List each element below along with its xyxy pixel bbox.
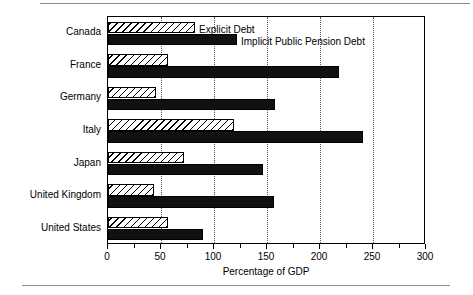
x-tick-0 [107,244,108,249]
legend-label-explicit-debt: Explicit Debt [199,24,255,35]
x-tick-200 [319,244,320,249]
x-tick-label-100: 100 [205,251,222,263]
x-axis: 050100150200250300 [107,244,425,268]
bar-explicit-debt [108,152,184,164]
x-tick-300 [425,244,426,249]
category-label-italy: Italy [83,124,101,135]
x-tick-label-300: 300 [417,251,434,263]
x-tick-50 [160,244,161,249]
category-label-united-kingdom: United Kingdom [30,189,101,200]
top-divider-rule [40,3,470,4]
bar-implicit-public-pension-debt [108,131,363,143]
bar-implicit-public-pension-debt [108,196,274,208]
x-tick-minor-75 [187,244,188,248]
bottom-divider-rule [22,285,450,286]
gridline-250 [373,17,375,243]
bar-implicit-public-pension-debt [108,164,263,176]
x-tick-minor-25 [134,244,135,248]
x-tick-label-150: 150 [258,251,275,263]
bar-explicit-debt [108,22,195,34]
category-label-japan: Japan [74,157,101,168]
bar-implicit-public-pension-debt [108,229,203,241]
x-tick-150 [266,244,267,249]
bar-explicit-debt [108,184,154,196]
category-axis-labels: CanadaFranceGermanyItalyJapanUnited King… [0,16,101,244]
gridline-200 [320,17,322,243]
category-label-canada: Canada [66,26,101,37]
x-tick-label-50: 50 [154,251,165,263]
bar-explicit-debt [108,54,168,66]
x-axis-title: Percentage of GDP [107,266,425,278]
x-tick-250 [372,244,373,249]
x-tick-label-0: 0 [104,251,110,263]
bar-explicit-debt [108,119,234,131]
bar-implicit-public-pension-debt [108,99,275,111]
category-label-united-states: United States [41,222,101,233]
legend-label-implicit-public-pension-debt: Implicit Public Pension Debt [241,36,365,47]
x-tick-minor-225 [346,244,347,248]
x-tick-100 [213,244,214,249]
x-tick-minor-125 [240,244,241,248]
bar-implicit-public-pension-debt [108,66,339,78]
x-tick-label-250: 250 [364,251,381,263]
x-tick-label-200: 200 [311,251,328,263]
plot-area [107,16,425,244]
category-label-france: France [70,59,101,70]
bar-explicit-debt [108,87,156,99]
bar-explicit-debt [108,217,168,229]
bar-implicit-public-pension-debt [108,34,237,46]
category-label-germany: Germany [60,91,101,102]
chart-figure: CanadaFranceGermanyItalyJapanUnited King… [0,0,473,295]
gridline-150 [267,17,269,243]
x-tick-minor-275 [399,244,400,248]
x-tick-minor-175 [293,244,294,248]
